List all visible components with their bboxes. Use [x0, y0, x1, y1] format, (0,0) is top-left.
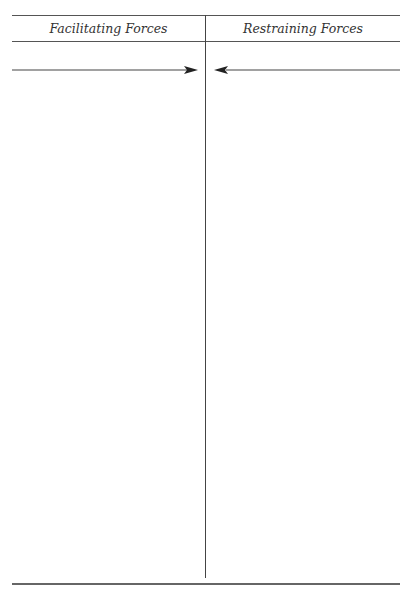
- force-arrows: [0, 0, 412, 590]
- restraining-arrow-icon: [214, 66, 400, 74]
- facilitating-arrow-icon: [12, 66, 198, 74]
